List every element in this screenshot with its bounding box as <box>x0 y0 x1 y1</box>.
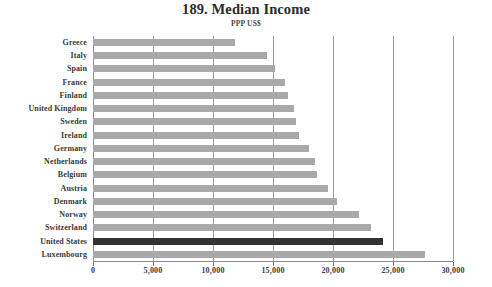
bar-row: Norway <box>93 208 453 221</box>
bar-row: Sweden <box>93 115 453 128</box>
chart-subtitle: PPP US$ <box>0 19 492 28</box>
bar-row: Greece <box>93 36 453 49</box>
category-label: Germany <box>0 144 87 153</box>
x-axis-tick-label: 15,000 <box>243 266 303 275</box>
bar-row: Germany <box>93 142 453 155</box>
plot-area: GreeceItalySpainFranceFinlandUnited King… <box>93 36 453 261</box>
bar-row: France <box>93 76 453 89</box>
category-label: Luxembourg <box>0 250 87 259</box>
category-label: Ireland <box>0 131 87 140</box>
chart-title: 189. Median Income <box>0 1 492 18</box>
x-axis-tick-label: 20,000 <box>303 266 363 275</box>
category-label: Italy <box>0 51 87 60</box>
bar <box>93 118 296 125</box>
category-label: Austria <box>0 184 87 193</box>
bar <box>93 65 275 72</box>
bar <box>93 158 315 165</box>
x-axis-tick-label: 25,000 <box>363 266 423 275</box>
bar <box>93 145 309 152</box>
x-axis-tick-label: 10,000 <box>183 266 243 275</box>
bar-row: Austria <box>93 182 453 195</box>
bar <box>93 171 317 178</box>
category-label: Sweden <box>0 117 87 126</box>
category-label: Netherlands <box>0 157 87 166</box>
category-label: Switzerland <box>0 223 87 232</box>
bar <box>93 79 285 86</box>
chart-container: 189. Median Income PPP US$ GreeceItalySp… <box>0 0 492 287</box>
x-axis-tick-label: 5,000 <box>123 266 183 275</box>
x-axis-tick-label: 0 <box>63 266 123 275</box>
bar <box>93 185 328 192</box>
bar-row: Italy <box>93 49 453 62</box>
category-label: France <box>0 78 87 87</box>
bar <box>93 92 288 99</box>
gridline <box>453 36 454 261</box>
category-label: Belgium <box>0 170 87 179</box>
x-axis-tick-label: 30,000 <box>423 266 483 275</box>
bar-row: Belgium <box>93 168 453 181</box>
bar <box>93 211 359 218</box>
bar-row: Denmark <box>93 195 453 208</box>
bar-highlighted <box>93 238 383 245</box>
category-label: Finland <box>0 91 87 100</box>
bar <box>93 39 235 46</box>
bar <box>93 224 371 231</box>
category-label: Denmark <box>0 197 87 206</box>
bar <box>93 105 294 112</box>
category-label: United States <box>0 237 87 246</box>
bar-row: Netherlands <box>93 155 453 168</box>
bar-row: Switzerland <box>93 221 453 234</box>
category-label: Greece <box>0 38 87 47</box>
bar <box>93 132 299 139</box>
bar-row: Finland <box>93 89 453 102</box>
bar <box>93 52 267 59</box>
bar <box>93 251 425 258</box>
bar-row: Spain <box>93 62 453 75</box>
category-label: United Kingdom <box>0 104 87 113</box>
bar-row: Luxembourg <box>93 248 453 261</box>
bar <box>93 198 337 205</box>
bar-row: United States <box>93 235 453 248</box>
bar-row: Ireland <box>93 129 453 142</box>
bar-row: United Kingdom <box>93 102 453 115</box>
category-label: Spain <box>0 64 87 73</box>
category-label: Norway <box>0 210 87 219</box>
